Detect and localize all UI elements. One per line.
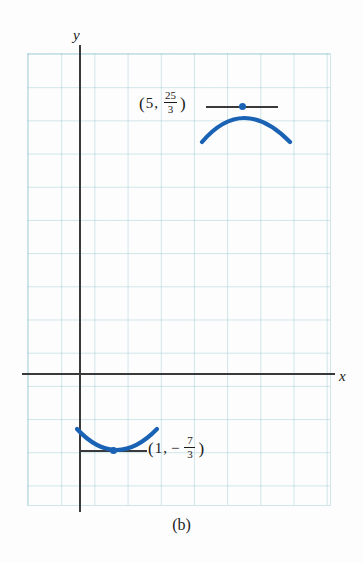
point-label-local-minimum: ( 1 , − 7 3 ) (148, 436, 204, 461)
parabola-arc-local-maximum (198, 98, 294, 146)
lower-comma: , (163, 441, 167, 456)
lower-fraction: 7 3 (184, 435, 195, 460)
lower-minus-sign: − (171, 441, 179, 456)
lower-numerator: 7 (186, 435, 194, 446)
figure-caption: (b) (0, 516, 363, 534)
vertex-marker-lower (110, 447, 117, 454)
lower-open-paren: ( (148, 440, 154, 457)
upper-denominator: 3 (167, 104, 175, 115)
y-axis-label: y (73, 28, 80, 43)
x-axis-label: x (339, 369, 346, 384)
upper-close-paren: ) (180, 95, 186, 112)
upper-comma: , (154, 96, 158, 111)
grid-right-edge (330, 53, 331, 505)
upper-fraction: 25 3 (164, 90, 177, 115)
upper-open-paren: ( (139, 95, 145, 112)
upper-x-value: 5 (146, 96, 154, 111)
x-axis (22, 373, 335, 375)
lower-close-paren: ) (198, 440, 204, 457)
grid-bottom-edge (27, 505, 331, 506)
lower-denominator: 3 (186, 449, 194, 460)
vertex-marker-upper (239, 103, 246, 110)
lower-x-value: 1 (155, 441, 163, 456)
point-label-local-maximum: ( 5 , 25 3 ) (139, 91, 186, 116)
figure-root: x y ( 5 , 25 3 ) ( 1 , − 7 3 ) (b) (0, 0, 363, 563)
upper-numerator: 25 (164, 90, 177, 101)
